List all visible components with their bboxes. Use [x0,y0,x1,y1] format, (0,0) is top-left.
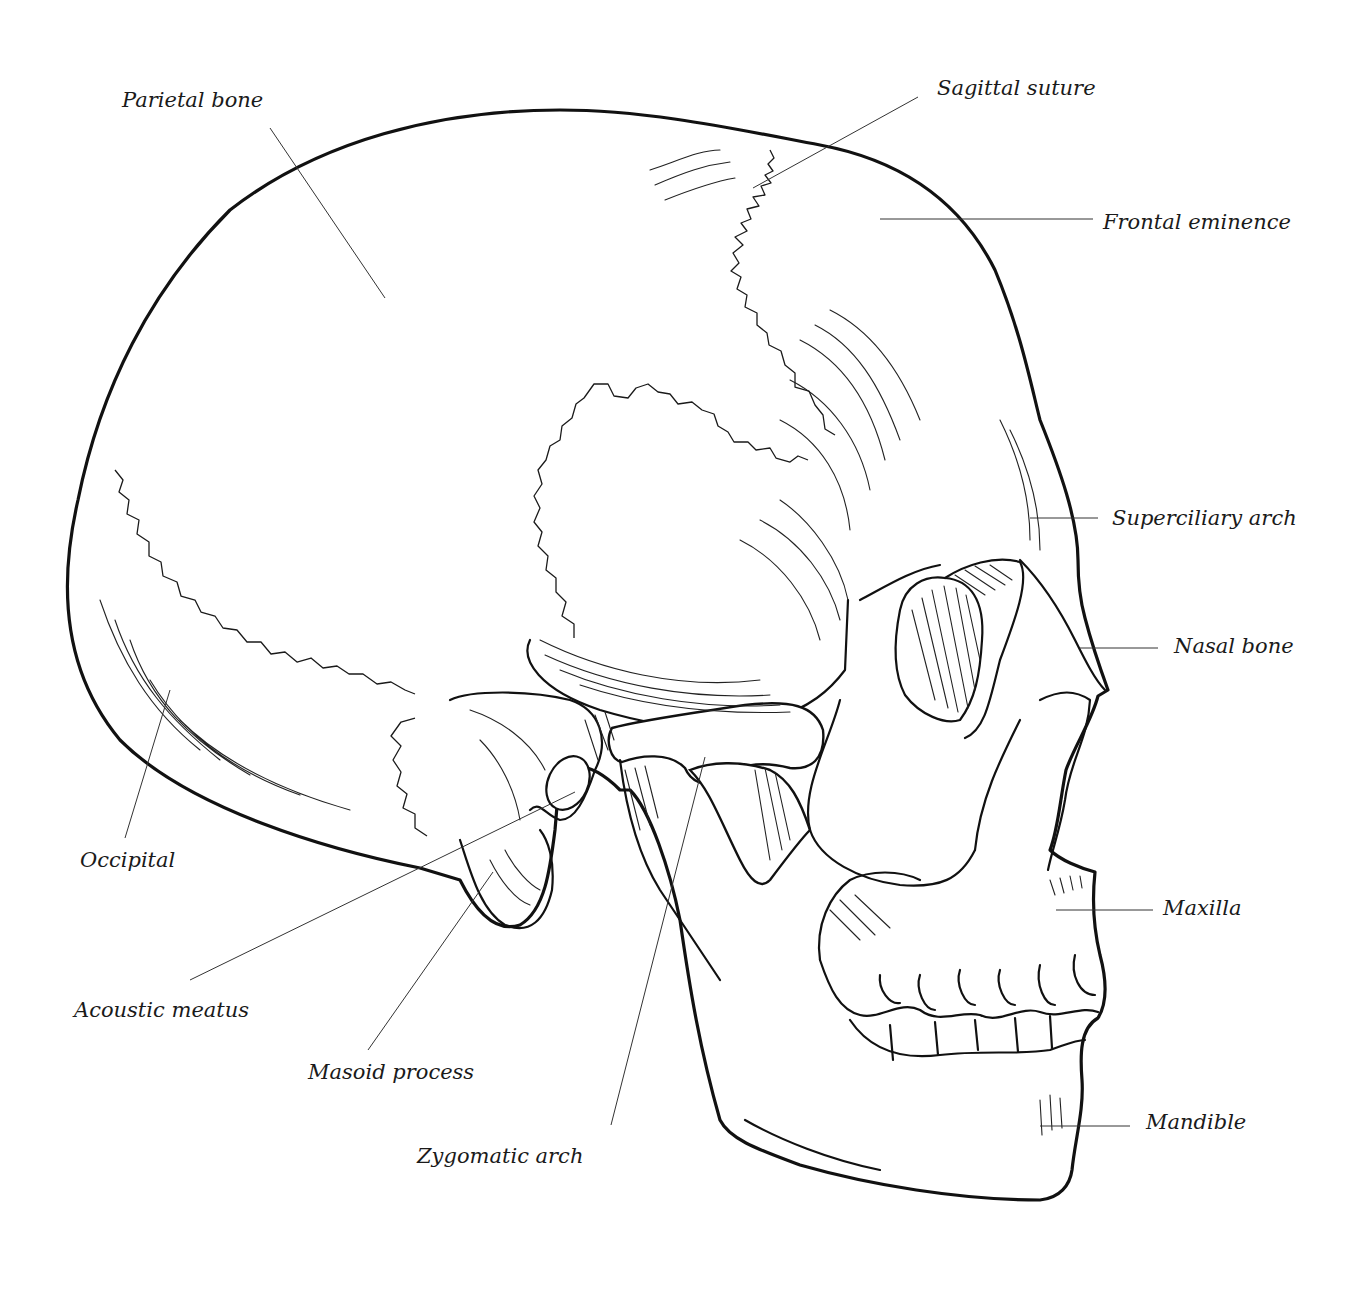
label-maxilla: Maxilla [1163,898,1242,919]
label-nasal-bone: Nasal bone [1174,636,1294,657]
label-sagittal-suture: Sagittal suture [937,78,1096,99]
label-frontal-eminence: Frontal eminence [1103,212,1291,233]
skull-illustration [0,0,1360,1296]
leader-masoid-process [368,872,493,1050]
skull-diagram: Parietal bone Sagittal suture Frontal em… [0,0,1360,1296]
label-parietal-bone: Parietal bone [122,90,263,111]
label-zygomatic-arch: Zygomatic arch [417,1146,583,1167]
label-superciliary-arch: Superciliary arch [1112,508,1297,529]
label-mandible: Mandible [1146,1112,1246,1133]
label-acoustic-meatus: Acoustic meatus [74,1000,249,1021]
label-occipital: Occipital [80,850,175,871]
label-masoid-process: Masoid process [308,1062,474,1083]
